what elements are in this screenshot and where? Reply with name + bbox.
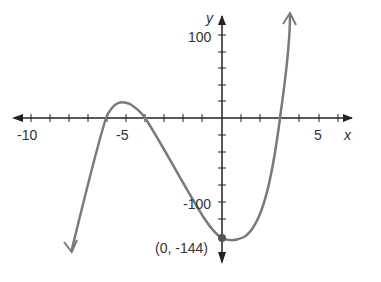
y-intercept-label: (0, -144): [155, 240, 208, 256]
x-tick-label-neg5: -5: [116, 127, 129, 143]
y-tick-label-100: 100: [188, 29, 212, 45]
y-axis-down-arrow-icon: [218, 252, 226, 264]
function-curve: [72, 15, 290, 250]
cubic-function-graph: -10 -5 5 x y 100 -100 (0, -144): [0, 0, 381, 282]
x-axis-label: x: [343, 127, 352, 143]
x-axis-left-arrow-icon: [12, 114, 23, 122]
y-intercept-point: [218, 234, 226, 242]
x-tick-label-5: 5: [314, 127, 322, 143]
y-tick-label-neg100: -100: [183, 196, 211, 212]
y-axis-label: y: [205, 10, 214, 26]
curve-down-arrow-icon: [64, 240, 77, 252]
x-tick-label-neg10: -10: [17, 127, 37, 143]
